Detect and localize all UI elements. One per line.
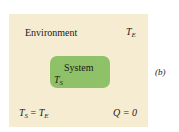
panel-label: (b) — [155, 67, 166, 77]
heat-equation: Q = 0 — [113, 108, 137, 118]
system-label: System — [64, 63, 93, 73]
equilibrium-equation: TS = TE — [19, 108, 49, 121]
system-temperature: TS — [54, 75, 63, 88]
environment-label: Environment — [25, 28, 77, 38]
environment-temperature: TE — [126, 27, 136, 40]
